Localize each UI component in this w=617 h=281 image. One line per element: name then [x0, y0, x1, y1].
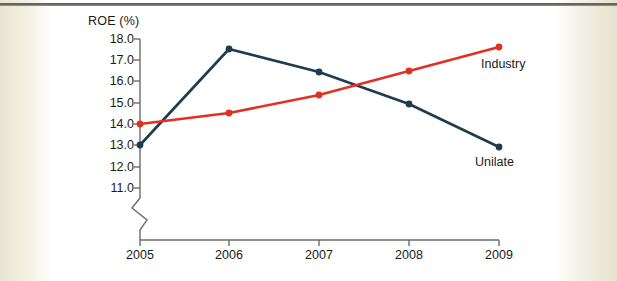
series-label-unilate: Unilate — [475, 155, 514, 169]
x-tick-label: 2008 — [395, 248, 423, 262]
y-axis-break-icon — [132, 188, 147, 240]
x-tick-label: 2006 — [215, 248, 243, 262]
x-axis-ticks — [140, 240, 499, 246]
y-axis-ticks — [134, 39, 140, 188]
series-label-industry: Industry — [481, 57, 525, 71]
plot-canvas — [0, 0, 617, 281]
x-tick-label: 2007 — [305, 248, 333, 262]
chart-page: ROE (%) 18.0 17.0 16.0 15.0 14.0 13.0 12… — [0, 0, 617, 281]
x-axis-tick-labels: 2005 2006 2007 2008 2009 — [0, 248, 617, 268]
x-tick-label: 2009 — [485, 248, 513, 262]
x-tick-label: 2005 — [126, 248, 154, 262]
roe-line-chart: ROE (%) 18.0 17.0 16.0 15.0 14.0 13.0 12… — [0, 0, 617, 281]
series-markers-industry — [137, 44, 503, 128]
